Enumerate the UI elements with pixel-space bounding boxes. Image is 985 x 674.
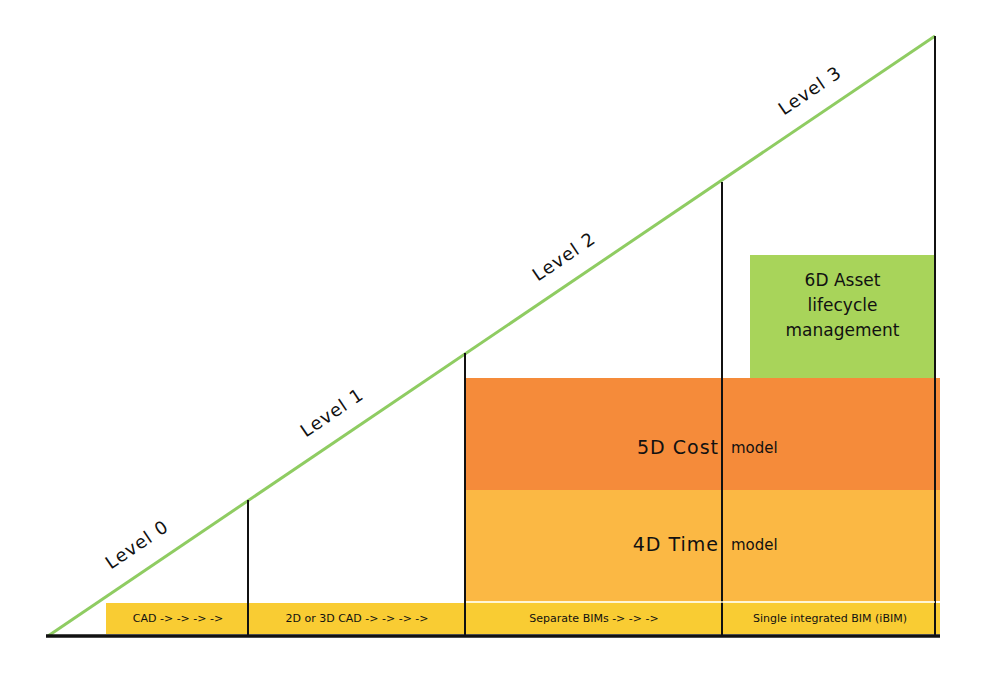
time-model-left-label: 4D Time: [633, 532, 719, 556]
cost-model-left-label: 5D Cost: [637, 435, 719, 459]
time-model-right-label: model: [731, 535, 778, 555]
asset-management-label: 6D Asset lifecycle management: [750, 268, 935, 343]
segment-2d-3d-cad: 2D or 3D CAD -> -> -> ->: [250, 603, 464, 634]
segment-separate-bims: Separate BIMs -> -> ->: [467, 603, 721, 634]
segment-cad: CAD -> -> -> ->: [110, 603, 246, 634]
asset-line-1: 6D Asset: [750, 268, 935, 293]
asset-line-2: lifecycle: [750, 293, 935, 318]
segment-ibim: Single integrated BIM (iBIM): [724, 603, 936, 634]
asset-line-3: management: [750, 318, 935, 343]
base-segments: CAD -> -> -> -> 2D or 3D CAD -> -> -> ->…: [0, 603, 985, 634]
cost-model-right-label: model: [731, 438, 778, 458]
